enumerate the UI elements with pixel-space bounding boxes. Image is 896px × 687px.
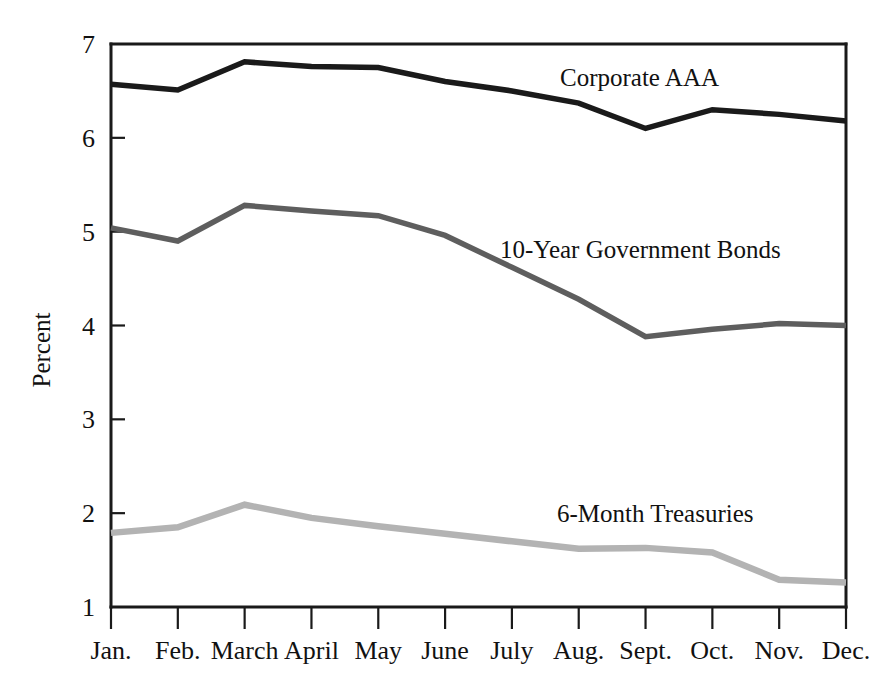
x-tick-label: May	[354, 636, 402, 665]
x-tick-label: Sept.	[619, 636, 672, 665]
x-tick-label: Aug.	[553, 636, 604, 665]
x-tick-label: Jan.	[90, 636, 131, 665]
y-tick-labels: 1234567	[82, 30, 95, 622]
x-tick-label: Feb.	[155, 636, 201, 665]
y-tick-label: 2	[82, 499, 95, 528]
x-tick-label: April	[284, 636, 339, 665]
x-tick-label: March	[211, 636, 279, 665]
y-tick-marks	[111, 138, 125, 513]
x-tick-label: Nov.	[754, 636, 804, 665]
x-tick-marks	[111, 607, 846, 629]
chart-page: 1234567 Jan.Feb.MarchAprilMayJuneJulyAug…	[0, 0, 896, 687]
series-label-corporate-aaa: Corporate AAA	[560, 64, 719, 91]
y-tick-label: 5	[82, 218, 95, 247]
interest-rates-line-chart: 1234567 Jan.Feb.MarchAprilMayJuneJulyAug…	[0, 0, 896, 687]
series-line-corporate-aaa	[111, 62, 846, 129]
x-tick-label: Dec.	[822, 636, 870, 665]
y-tick-label: 1	[82, 593, 95, 622]
series-line-10-year-government-bonds	[111, 205, 846, 336]
series-label-10-year-government-bonds: 10-Year Government Bonds	[500, 236, 781, 263]
y-tick-label: 6	[82, 124, 95, 153]
series-label-6-month-treasuries: 6-Month Treasuries	[557, 500, 754, 527]
y-tick-label: 3	[82, 405, 95, 434]
x-tick-label: June	[421, 636, 469, 665]
y-tick-label: 7	[82, 30, 95, 59]
y-axis-title: Percent	[28, 312, 55, 387]
x-tick-label: Oct.	[690, 636, 734, 665]
x-tick-label: July	[490, 636, 533, 665]
y-tick-label: 4	[82, 312, 95, 341]
x-tick-labels: Jan.Feb.MarchAprilMayJuneJulyAug.Sept.Oc…	[90, 636, 870, 665]
